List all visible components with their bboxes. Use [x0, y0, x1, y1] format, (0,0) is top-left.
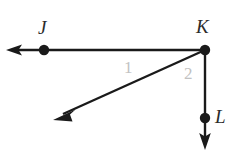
point-dot-l [200, 113, 210, 123]
ray-k-to-j [6, 45, 205, 56]
angle-label-1: 1 [124, 59, 133, 76]
point-dot-k [200, 45, 210, 55]
ray-k-to-l [199, 50, 211, 150]
point-label-l: L [215, 107, 226, 126]
point-label-k: K [196, 17, 209, 36]
geometry-diagram: J K L 1 2 [0, 0, 236, 153]
arrowhead-down-left-icon [53, 110, 76, 122]
angle-label-2: 2 [184, 65, 193, 82]
point-dot-j [39, 45, 49, 55]
point-label-j: J [38, 18, 46, 37]
